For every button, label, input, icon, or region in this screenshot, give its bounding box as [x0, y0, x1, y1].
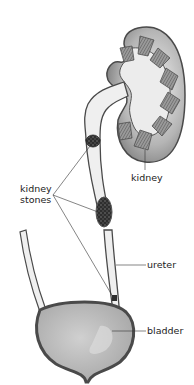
label-kidney-stones-line1: kidney — [20, 183, 52, 194]
stone-mid — [96, 197, 112, 227]
label-kidney-stones: kidney stones — [20, 183, 52, 205]
stone-upper — [86, 135, 100, 147]
label-bladder: bladder — [147, 325, 183, 336]
label-ureter: ureter — [147, 259, 176, 270]
bladder-organ — [37, 302, 134, 382]
label-kidney: kidney — [131, 172, 163, 183]
label-kidney-stones-line2: stones — [20, 194, 52, 205]
urinary-tract-diagram: kidney kidney stones ureter bladder — [0, 0, 194, 385]
stone-lower — [112, 295, 117, 301]
ureter-left — [20, 230, 46, 312]
